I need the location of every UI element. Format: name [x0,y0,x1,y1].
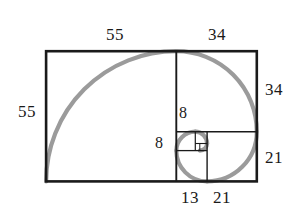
label-bottom-21: 21 [213,189,231,206]
label-left-55: 55 [18,103,36,120]
label-inner-8-lower: 8 [155,135,164,151]
fibonacci-spiral-diagram: 55 34 55 34 21 13 21 8 8 [0,0,305,217]
fibonacci-diagram-svg [0,0,305,217]
label-right-34: 34 [265,81,283,98]
outer-rectangle [46,51,257,181]
fibonacci-spiral-path [46,51,257,181]
label-top-55: 55 [106,26,124,43]
label-bottom-13: 13 [181,189,199,206]
label-inner-8-upper: 8 [179,105,188,121]
label-top-34: 34 [208,26,226,43]
label-right-21: 21 [265,149,283,166]
